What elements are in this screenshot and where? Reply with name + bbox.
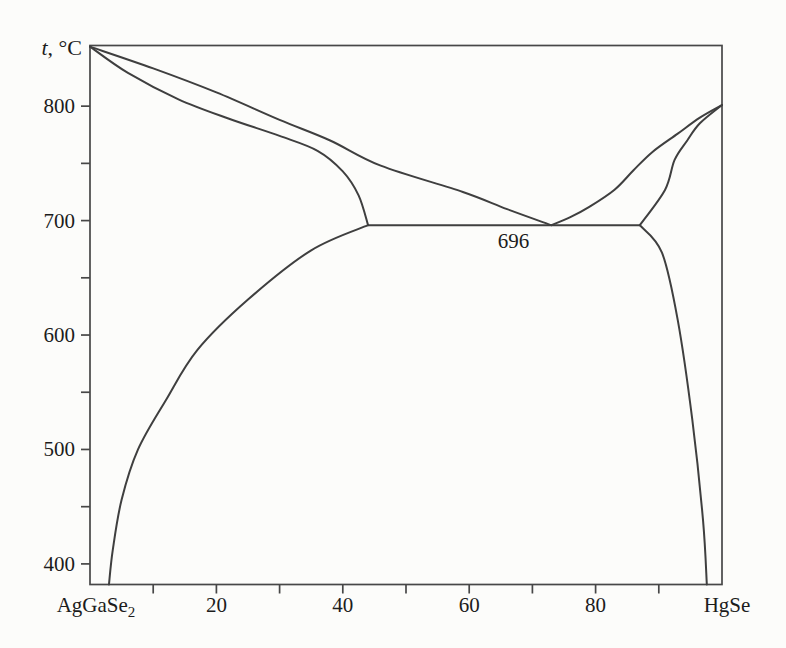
- liquidus-right-curve: [551, 105, 722, 225]
- y-tick-label: 500: [44, 437, 76, 461]
- y-tick-label: 600: [44, 323, 76, 347]
- x-axis-left-end-label: AgGaSe2: [57, 593, 136, 620]
- x-tick-label: 80: [585, 593, 606, 617]
- solidus-left-curve: [90, 47, 368, 226]
- solvus-left-curve: [109, 225, 368, 584]
- plot-frame: [90, 46, 722, 585]
- x-axis-right-end-label: HgSe: [704, 593, 751, 617]
- solidus-right-curve: [640, 105, 722, 225]
- phase-diagram: 20406080400500600700800t, °CAgGaSe2HgSe6…: [0, 0, 786, 648]
- solvus-right-curve: [640, 225, 707, 584]
- eutectic-temperature-label: 696: [498, 229, 530, 253]
- y-axis-title: t, °C: [41, 35, 82, 60]
- x-tick-label: 60: [459, 593, 480, 617]
- y-tick-label: 400: [44, 552, 76, 576]
- x-tick-label: 20: [206, 593, 227, 617]
- x-tick-label: 40: [332, 593, 353, 617]
- y-tick-label: 700: [44, 209, 76, 233]
- y-tick-label: 800: [44, 94, 76, 118]
- scanned-figure-page: 20406080400500600700800t, °CAgGaSe2HgSe6…: [0, 0, 786, 648]
- liquidus-left-curve: [90, 47, 551, 226]
